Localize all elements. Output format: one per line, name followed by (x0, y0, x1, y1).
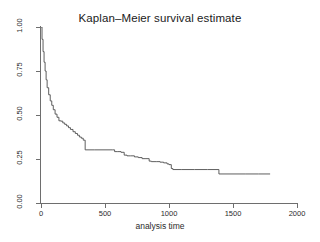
x-tick-mark (41, 204, 42, 208)
x-tick-label: 1500 (213, 209, 253, 218)
y-tick-label: 0.25 (15, 145, 24, 171)
y-tick-label: 1.00 (15, 13, 24, 39)
survival-curve-svg (41, 27, 297, 203)
y-tick-label: 0.75 (15, 57, 24, 83)
x-tick-mark (169, 204, 170, 208)
y-tick-mark (36, 71, 40, 72)
x-tick-mark (105, 204, 106, 208)
x-axis-title: analysis time (0, 221, 320, 231)
kaplan-meier-figure: Kaplan–Meier survival estimate 0.000.250… (0, 0, 320, 242)
y-tick-mark (36, 27, 40, 28)
x-tick-mark (297, 204, 298, 208)
chart-title: Kaplan–Meier survival estimate (0, 12, 320, 24)
x-tick-label: 500 (85, 209, 125, 218)
plot-area (41, 27, 297, 203)
x-tick-label: 0 (21, 209, 61, 218)
survival-curve-line (41, 27, 270, 174)
x-tick-label: 2000 (277, 209, 317, 218)
x-tick-mark (233, 204, 234, 208)
y-tick-label: 0.50 (15, 101, 24, 127)
y-tick-mark (36, 203, 40, 204)
x-tick-label: 1000 (149, 209, 189, 218)
y-tick-mark (36, 159, 40, 160)
y-tick-mark (36, 115, 40, 116)
